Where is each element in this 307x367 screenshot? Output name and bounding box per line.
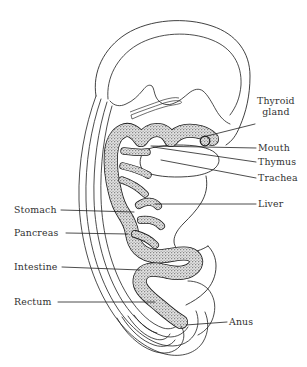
label-trachea: Trachea <box>258 173 298 184</box>
label-pancreas: Pancreas <box>14 228 58 239</box>
label-mouth: Mouth <box>258 143 290 154</box>
label-thyroid-gland-line1: Thyroid <box>257 95 295 106</box>
label-intestine: Intestine <box>14 262 58 273</box>
label-thyroid-gland: Thyroid gland <box>257 96 295 117</box>
label-anus: Anus <box>229 317 253 328</box>
thyroid-gland-nub <box>200 136 211 147</box>
label-rectum: Rectum <box>14 297 51 308</box>
label-liver: Liver <box>258 199 283 210</box>
label-thymus: Thymus <box>258 157 296 168</box>
embryo-digestive-diagram: Thyroid gland Mouth Thymus Trachea Liver… <box>0 0 307 367</box>
heart-outline <box>140 145 219 177</box>
label-thyroid-gland-line2: gland <box>257 107 295 118</box>
label-stomach: Stomach <box>14 205 57 216</box>
